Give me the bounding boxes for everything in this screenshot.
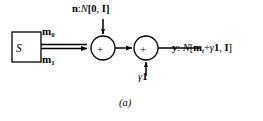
- block-diagram-canvas: [0, 0, 263, 121]
- figure-caption: (a): [119, 98, 131, 109]
- noise-close-bracket: ]: [106, 3, 110, 14]
- branch-m1-symbol: m: [42, 53, 51, 65]
- branch-label-m0: m0: [42, 26, 55, 39]
- output-comma: ,: [219, 42, 222, 53]
- bias-input-label: γ1: [138, 72, 147, 83]
- output-mean-symbol: m: [193, 42, 202, 53]
- branch-m0-symbol: m: [42, 25, 51, 37]
- noise-distribution: N: [81, 3, 88, 14]
- figure-block-diagram: n:N[0, I] m0 m1 S + + γ1 y: N[mi+γ1, I] …: [0, 0, 263, 121]
- noise-input-label: n:N[0, I]: [72, 4, 109, 15]
- output-close-bracket: ]: [229, 42, 233, 53]
- output-label: y: N[mi+γ1, I]: [172, 43, 232, 54]
- output-distribution: N: [183, 42, 190, 53]
- adder-noise-operator: +: [97, 44, 103, 55]
- output-separator: :: [177, 42, 180, 53]
- branch-m1-subscript: 1: [51, 59, 54, 66]
- branch-m0-subscript: 0: [51, 31, 54, 38]
- source-block-label: S: [16, 43, 22, 55]
- adder-bias-operator: +: [140, 44, 146, 55]
- bias-ones-vector: 1: [142, 71, 147, 82]
- branch-label-m1: m1: [42, 54, 55, 67]
- noise-comma: ,: [97, 3, 100, 14]
